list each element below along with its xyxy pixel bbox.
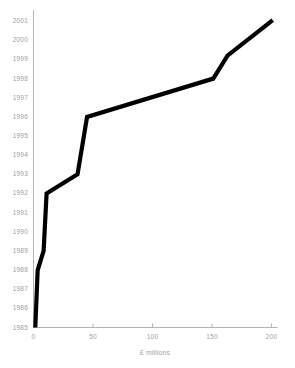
y-tick-label-1987: 1987 (0, 286, 28, 293)
x-tick-label-200: 200 (266, 334, 277, 341)
y-tick-label-1996: 1996 (0, 114, 28, 121)
y-tick-label-1999: 1999 (0, 56, 28, 63)
data-series-line (35, 20, 272, 327)
x-tick-label-150: 150 (206, 334, 217, 341)
x-tick-label-50: 50 (89, 334, 97, 341)
y-tick-label-1995: 1995 (0, 133, 28, 140)
y-tick-label-1994: 1994 (0, 152, 28, 159)
x-tick-label-100: 100 (147, 334, 158, 341)
y-tick-label-1985: 1985 (0, 324, 28, 331)
y-tick-label-1997: 1997 (0, 94, 28, 101)
y-tick-label-1993: 1993 (0, 171, 28, 178)
x-axis-tick-marks (34, 324, 272, 328)
y-tick-label-1990: 1990 (0, 228, 28, 235)
y-tick-label-1992: 1992 (0, 190, 28, 197)
y-tick-label-1986: 1986 (0, 305, 28, 312)
axis-lines (33, 10, 278, 328)
y-tick-label-1991: 1991 (0, 209, 28, 216)
x-axis-title: £ millions (140, 349, 170, 356)
x-tick-label-0: 0 (32, 334, 36, 341)
y-tick-label-1998: 1998 (0, 75, 28, 82)
y-tick-label-1988: 1988 (0, 267, 28, 274)
y-tick-label-2001: 2001 (0, 18, 28, 25)
y-tick-label-1989: 1989 (0, 248, 28, 255)
chart-container: 1985198619871988198919901991199219931994… (0, 0, 295, 368)
y-tick-label-2000: 2000 (0, 37, 28, 44)
line-chart-plot (0, 0, 295, 368)
